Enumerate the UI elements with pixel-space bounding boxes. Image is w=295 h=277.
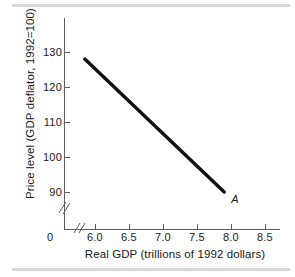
x-axis-line bbox=[64, 229, 280, 230]
x-tick-label-8-5: 8.5 bbox=[245, 232, 285, 243]
y-axis-break-icon bbox=[58, 200, 71, 220]
x-axis-break-icon bbox=[72, 221, 88, 239]
x-tick-8-5 bbox=[265, 224, 266, 230]
x-tick-6-5 bbox=[129, 224, 130, 230]
y-tick-120 bbox=[64, 87, 70, 88]
y-tick-130 bbox=[64, 52, 70, 53]
y-axis-title: Price level (GDP deflator, 1992=100) bbox=[24, 19, 36, 199]
origin-label: 0 bbox=[47, 232, 53, 243]
x-axis-title: Real GDP (trillions of 1992 dollars) bbox=[60, 248, 290, 260]
y-tick-100 bbox=[64, 157, 70, 158]
x-tick-7-0 bbox=[163, 224, 164, 230]
bottom-divider-rule bbox=[12, 268, 290, 271]
x-tick-7-5 bbox=[197, 224, 198, 230]
x-tick-8-0 bbox=[231, 224, 232, 230]
y-tick-90 bbox=[64, 192, 70, 193]
y-tick-110 bbox=[64, 122, 70, 123]
point-label-a: A bbox=[231, 194, 238, 205]
x-tick-6-0 bbox=[95, 224, 96, 230]
y-axis-line bbox=[64, 18, 65, 230]
price-level-real-gdp-chart: 130 120 110 100 90 6.0 6.5 7.0 7.5 8.0 8… bbox=[0, 0, 295, 277]
